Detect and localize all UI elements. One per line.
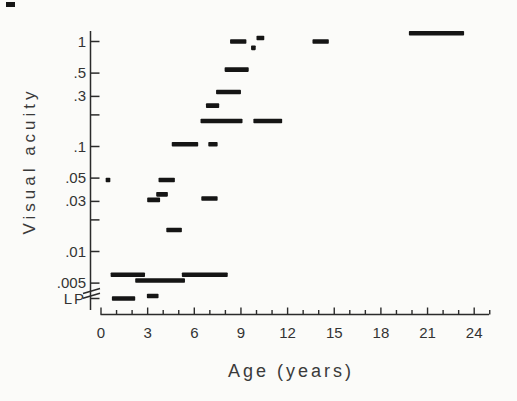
acuity-vs-age-chart: 1.5.3.1.05.03.01.005LP03691215182124 [0, 0, 517, 401]
data-bar [251, 46, 256, 51]
y-axis-title: Visual acuity [20, 87, 40, 234]
data-bar [156, 192, 168, 197]
data-bar [106, 178, 111, 183]
x-axis: 03691215182124 [97, 308, 490, 342]
scan-artifact [6, 2, 15, 7]
data-bar [253, 119, 282, 124]
y-tick-label: LP [64, 290, 86, 307]
y-tick-label: .1 [73, 138, 86, 155]
data-bar [111, 272, 145, 277]
data-bar [208, 142, 217, 147]
y-axis: 1.5.3.1.05.03.01.005LP [57, 31, 100, 310]
x-tick-label: 0 [97, 324, 105, 341]
data-bar [206, 103, 219, 108]
x-tick-label: 9 [237, 324, 245, 341]
data-bar [147, 294, 159, 299]
y-tick-label: .3 [73, 87, 86, 104]
y-tick-label: .05 [65, 169, 86, 186]
x-tick-label: 18 [373, 324, 390, 341]
data-bar [147, 198, 160, 203]
x-tick-label: 12 [279, 324, 296, 341]
scanned-figure-page: 1.5.3.1.05.03.01.005LP03691215182124 Vis… [0, 0, 517, 401]
data-bar [201, 119, 243, 124]
y-tick-label: .5 [73, 64, 86, 81]
data-bar [257, 36, 265, 41]
y-tick-label: .01 [65, 243, 86, 260]
data-bar [166, 228, 182, 233]
data-bar [135, 278, 185, 283]
data-bar [201, 196, 217, 201]
data-bar [159, 178, 175, 183]
x-axis-title: Age (years) [228, 361, 354, 382]
data-bar [216, 90, 241, 95]
x-tick-label: 3 [143, 324, 151, 341]
x-tick-label: 6 [190, 324, 198, 341]
data-bar [230, 39, 246, 44]
data-bar [172, 142, 198, 147]
data-bar [409, 31, 464, 36]
data-bar [225, 67, 249, 72]
data-bar [112, 296, 135, 301]
data-bar [182, 272, 228, 277]
x-tick-label: 15 [326, 324, 343, 341]
x-tick-label: 24 [466, 324, 483, 341]
y-tick-label: .03 [65, 192, 86, 209]
data-marks [106, 31, 464, 301]
y-tick-label: 1 [78, 33, 86, 50]
data-bar [312, 39, 328, 44]
x-tick-label: 21 [419, 324, 436, 341]
